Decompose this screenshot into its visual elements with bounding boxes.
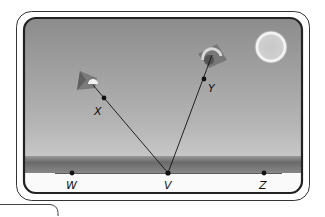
sea-band [24,156,302,174]
point-w [70,171,75,176]
label-x: X [93,105,102,118]
kite-diagram: X Y W V Z [0,0,325,216]
partial-box-edge [0,205,58,217]
point-v [165,170,170,175]
point-x [102,96,107,101]
scene [24,18,302,195]
label-w: W [66,179,78,192]
label-z: Z [258,179,267,192]
point-z [262,171,267,176]
sun-icon [254,30,288,64]
point-y [202,77,207,82]
